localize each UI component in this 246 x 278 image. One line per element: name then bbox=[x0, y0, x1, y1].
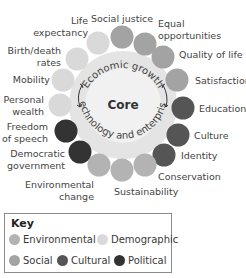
factor-label: Identity bbox=[181, 150, 218, 161]
factor-circle-mobility bbox=[52, 69, 75, 92]
factor-label: government bbox=[7, 160, 65, 171]
factor-circle-conservation bbox=[134, 154, 157, 177]
demographic-swatch-icon bbox=[97, 234, 108, 245]
factor-label: wealth bbox=[12, 106, 44, 117]
factor-label: Equal bbox=[158, 18, 185, 29]
factor-label: Education bbox=[199, 103, 246, 114]
legend-label: Environmental bbox=[23, 234, 96, 245]
legend-item-social: Social bbox=[9, 255, 53, 266]
social-swatch-icon bbox=[9, 255, 20, 266]
environmental-swatch-icon bbox=[9, 234, 20, 245]
legend-title: Key bbox=[11, 217, 34, 230]
factor-circle-education bbox=[172, 97, 195, 120]
legend-label: Social bbox=[23, 255, 53, 266]
factor-label: Sustainability bbox=[114, 186, 179, 197]
factor-label: rates bbox=[37, 57, 61, 68]
legend-label: Demographic bbox=[111, 234, 178, 245]
legend-item-cultural: Cultural bbox=[57, 255, 110, 266]
factor-label: Environmental bbox=[25, 179, 94, 190]
factor-circle-sustainability bbox=[111, 159, 134, 182]
legend-label: Political bbox=[128, 255, 166, 266]
factor-label: of speech bbox=[2, 133, 48, 144]
factor-circle-personal-wealth bbox=[49, 94, 72, 117]
factor-circle-environmental-change bbox=[88, 154, 111, 177]
factor-circle-quality-of-life bbox=[152, 46, 175, 69]
factor-circle-social-justice bbox=[111, 26, 134, 49]
factor-label: Conservation bbox=[158, 171, 221, 182]
factor-label: Mobility bbox=[13, 74, 51, 85]
factor-label: Culture bbox=[194, 130, 229, 141]
factor-label: Quality of life bbox=[179, 49, 243, 60]
factor-label: Satisfaction bbox=[195, 75, 246, 86]
factor-circle-satisfaction bbox=[166, 69, 189, 92]
factor-circle-freedom-of-speech bbox=[55, 120, 78, 143]
quality-of-life-diagram: Core Economic growth Technology and ente… bbox=[0, 0, 246, 210]
legend-item-political: Political bbox=[114, 255, 166, 266]
legend-item-demographic: Demographic bbox=[97, 234, 178, 245]
factor-label: Social justice bbox=[91, 13, 153, 24]
factor-circle-birth-death-rates bbox=[66, 48, 89, 71]
factor-label: opportunities bbox=[158, 30, 221, 41]
cultural-swatch-icon bbox=[57, 255, 68, 266]
core-label: Core bbox=[107, 98, 138, 112]
factor-label: Democratic bbox=[10, 148, 65, 159]
factor-label: expectancy bbox=[33, 27, 88, 38]
factor-label: Freedom bbox=[7, 121, 48, 132]
factor-label: change bbox=[59, 191, 94, 202]
factor-label: Birth/death bbox=[8, 45, 61, 56]
legend-item-environmental: Environmental bbox=[9, 234, 96, 245]
factor-circle-life-expectancy bbox=[87, 32, 110, 55]
factor-label: Life bbox=[71, 15, 88, 26]
legend: Key Environmental Demographic Social Cul… bbox=[4, 213, 172, 273]
factor-label: Personal bbox=[4, 94, 44, 105]
political-swatch-icon bbox=[114, 255, 125, 266]
legend-label: Cultural bbox=[71, 255, 110, 266]
factor-circle-culture bbox=[167, 124, 190, 147]
factor-circle-democratic-government bbox=[69, 141, 92, 164]
